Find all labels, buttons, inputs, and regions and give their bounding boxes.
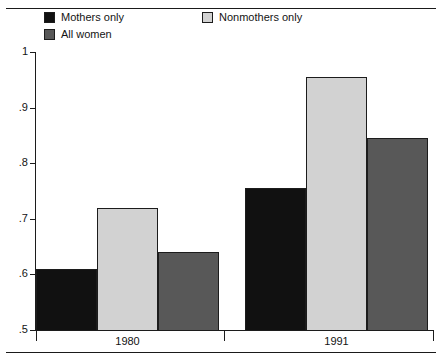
- y-axis-tick-label: .5: [2, 323, 28, 335]
- y-axis-tick-label: .9: [2, 101, 28, 113]
- x-axis-label-1980: 1980: [115, 335, 139, 347]
- bar-1991-nonmothers-only: [306, 77, 367, 331]
- y-axis-tick: [30, 219, 36, 220]
- x-axis-label-1991: 1991: [324, 335, 348, 347]
- y-axis-tick-label: 1: [2, 45, 28, 57]
- y-axis-tick: [30, 108, 36, 109]
- x-axis-group-separator: [224, 330, 225, 341]
- bar-1991-mothers-only: [245, 188, 306, 331]
- y-axis-tick: [30, 163, 36, 164]
- x-axis-group-separator: [433, 330, 434, 341]
- figure-bar-chart: Mothers only Nonmothers only All women 1…: [0, 0, 442, 360]
- bar-1980-mothers-only: [36, 269, 97, 331]
- bar-1980-all-women: [158, 252, 219, 331]
- y-axis-tick: [30, 52, 36, 53]
- y-axis-tick-label: .7: [2, 212, 28, 224]
- y-axis-tick-label: .6: [2, 267, 28, 279]
- plot-area: 1.9.8.7.6.519801991: [0, 0, 442, 360]
- bar-1980-nonmothers-only: [97, 208, 158, 331]
- bar-1991-all-women: [367, 138, 428, 331]
- x-axis-group-separator: [36, 330, 37, 341]
- y-axis-tick-label: .8: [2, 156, 28, 168]
